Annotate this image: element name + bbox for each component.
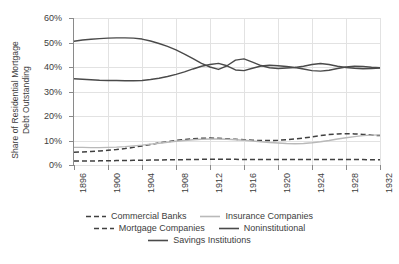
legend-swatch-icon	[148, 237, 168, 244]
legend-row: Commercial BanksInsurance Companies	[86, 211, 313, 221]
x-tick-label: 1916	[248, 173, 258, 193]
x-tick-mark	[142, 165, 143, 170]
y-tick-mark	[69, 67, 74, 68]
series-line-mortgage-companies	[74, 159, 380, 161]
x-tick-mark	[346, 165, 347, 170]
x-tick-mark	[210, 165, 211, 170]
legend-item-noninstitutional[interactable]: Noninstitutional	[219, 223, 306, 233]
x-tick-label: 1920	[282, 173, 292, 193]
x-tick-label: 1912	[214, 173, 224, 193]
legend-swatch-icon	[219, 225, 239, 232]
x-tick-label: 1908	[180, 173, 190, 193]
x-tick-mark	[176, 165, 177, 170]
gridline-vertical	[380, 18, 381, 165]
y-tick-label: 60%	[44, 13, 62, 23]
y-tick-mark	[69, 43, 74, 44]
series-line-insurance-companies	[74, 135, 380, 148]
legend-item-savings-institutions[interactable]: Savings Institutions	[148, 235, 251, 245]
chart-legend: Commercial BanksInsurance CompaniesMortg…	[0, 211, 399, 245]
legend-row: Mortgage CompaniesNoninstitutional	[94, 223, 306, 233]
y-tick-mark	[69, 92, 74, 93]
plot-area	[74, 18, 380, 165]
x-tick-label: 1904	[146, 173, 156, 193]
legend-item-mortgage-companies[interactable]: Mortgage Companies	[94, 223, 205, 233]
x-tick-mark	[244, 165, 245, 170]
y-tick-label: 20%	[44, 111, 62, 121]
legend-label: Mortgage Companies	[119, 223, 205, 233]
data-lines	[74, 18, 380, 165]
x-tick-mark	[108, 165, 109, 170]
x-tick-mark	[74, 165, 75, 170]
y-tick-mark	[69, 141, 74, 142]
x-tick-mark	[278, 165, 279, 170]
legend-item-commercial-banks[interactable]: Commercial Banks	[86, 211, 187, 221]
x-tick-label: 1928	[350, 173, 360, 193]
x-tick-label: 1896	[78, 173, 88, 193]
legend-label: Commercial Banks	[111, 211, 187, 221]
y-tick-label: 50%	[44, 38, 62, 48]
x-tick-label: 1924	[316, 173, 326, 193]
legend-label: Noninstitutional	[244, 223, 306, 233]
legend-label: Savings Institutions	[173, 235, 251, 245]
chart-figure: Share of Residential Mortgage Debt Outst…	[0, 0, 399, 264]
y-tick-mark	[69, 18, 74, 19]
x-tick-label: 1900	[112, 173, 122, 193]
legend-row: Savings Institutions	[148, 235, 251, 245]
legend-swatch-icon	[94, 225, 114, 232]
legend-label: Insurance Companies	[225, 211, 313, 221]
gridline-horizontal	[74, 165, 380, 166]
series-line-commercial-banks	[74, 134, 380, 153]
y-tick-label: 10%	[44, 136, 62, 146]
legend-swatch-icon	[86, 213, 106, 220]
y-tick-label: 40%	[44, 62, 62, 72]
series-line-noninstitutional	[74, 38, 380, 70]
y-tick-mark	[69, 116, 74, 117]
y-tick-label: 0%	[49, 160, 62, 170]
x-tick-mark	[380, 165, 381, 170]
y-tick-label: 30%	[44, 87, 62, 97]
legend-item-insurance-companies[interactable]: Insurance Companies	[200, 211, 313, 221]
legend-swatch-icon	[200, 213, 220, 220]
x-tick-label: 1932	[384, 173, 394, 193]
y-tick-mark	[69, 165, 74, 166]
x-tick-mark	[312, 165, 313, 170]
